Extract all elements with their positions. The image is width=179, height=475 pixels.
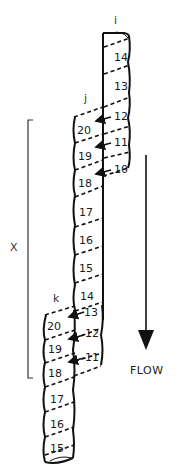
segment-label: 12 [114,110,128,123]
segment-label: 15 [50,442,64,455]
flow-label: FLOW [130,364,164,377]
x-bracket: X [10,120,33,378]
segment-label: 13 [84,306,98,319]
divider [104,152,130,158]
bracket-line [28,120,33,378]
flow-indicator: FLOW [130,155,164,377]
segment-label: 20 [47,320,61,333]
coring-diagram: i 14 13 12 11 10 j 20 19 18 [0,0,179,475]
middle-column: 17 16 15 14 [75,110,103,320]
arrow-12-to-19 [69,335,84,339]
bottom-column-base [45,458,73,463]
segment-label: 13 [114,80,128,93]
divider [75,274,103,283]
segment-label: 18 [48,367,62,380]
divider [104,38,130,47]
label-j: j [83,92,87,105]
divider [104,126,130,134]
column-k-left-wall [44,315,47,462]
divider [75,218,103,227]
arrow-13-to-20 [69,312,84,317]
segment-label: 16 [79,234,93,247]
label-i: i [114,14,117,27]
segment-label: 14 [80,290,94,303]
divider [74,107,103,117]
flow-arrow-head [138,330,154,350]
divider [74,366,101,376]
segment-label: 11 [85,351,99,364]
segment-label: 16 [50,418,64,431]
divider [75,246,103,255]
segment-label: 17 [50,393,64,406]
segment-label: 19 [78,150,92,163]
upper-column-right-wall [128,36,130,168]
k-right-wall [101,305,103,365]
divider [104,97,130,107]
segment-label: 19 [48,343,62,356]
segment-label: 20 [77,124,91,137]
segment-label: 17 [79,206,93,219]
divider [104,65,130,74]
label-k: k [53,292,60,305]
column-k: 20 19 18 [44,306,76,462]
arrow-11-to-18 [69,358,84,362]
upper-column: 14 13 12 11 10 [103,32,130,176]
segment-label: 12 [85,327,99,340]
divider [45,306,75,315]
segment-label: 15 [79,262,93,275]
segment-label: 11 [114,136,128,149]
segment-label: 14 [114,51,128,64]
column-j-left-wall [74,117,76,310]
segment-label: 18 [78,177,92,190]
label-x: X [10,241,18,254]
bottom-column-right-wall [73,310,75,458]
